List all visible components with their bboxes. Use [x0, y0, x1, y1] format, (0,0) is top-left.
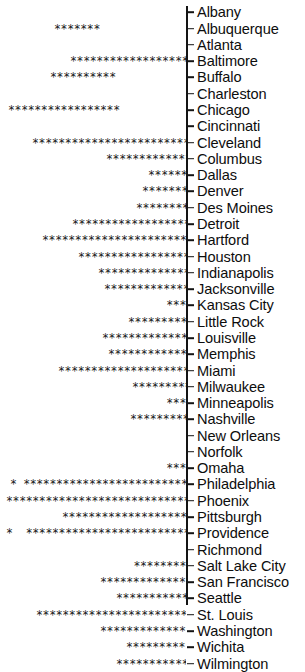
category-label: Minneapolis — [197, 396, 274, 411]
category-label: Dallas — [197, 168, 237, 183]
bar-asterisks: ************* — [108, 348, 186, 361]
category-label: Providence — [197, 526, 269, 541]
axis-tick — [187, 28, 194, 30]
chart-row: *************Memphis — [0, 346, 305, 362]
category-label: Miami — [197, 363, 235, 378]
axis-tick — [187, 256, 194, 258]
category-label: Norfolk — [197, 444, 243, 459]
category-label: Louisville — [197, 330, 256, 345]
axis-tick — [187, 663, 194, 665]
axis-tick — [187, 305, 194, 307]
chart-row: ***Omaha — [0, 460, 305, 476]
axis-tick — [187, 191, 194, 193]
chart-row: ***************************Chicago — [0, 102, 305, 118]
axis-tick — [187, 207, 194, 209]
bar-asterisks: *************************** — [36, 608, 186, 621]
chart-row: Albany — [0, 4, 305, 20]
category-label: Memphis — [197, 347, 256, 362]
category-label: Columbus — [197, 151, 262, 166]
chart-row: **********Wichita — [0, 639, 305, 655]
chart-row: *********Milwaukee — [0, 379, 305, 395]
category-label: Cleveland — [197, 135, 261, 150]
axis-tick — [187, 516, 194, 518]
bar-asterisks: ********* — [130, 413, 186, 426]
category-label: Wilmington — [197, 656, 268, 671]
chart-row: * **************************************… — [0, 476, 305, 492]
bar-asterisks: *** — [162, 462, 186, 475]
axis-tick — [187, 435, 194, 437]
chart-row: ***Minneapolis — [0, 395, 305, 411]
chart-row: * **************************************… — [0, 525, 305, 541]
chart-row: *********Nashville — [0, 411, 305, 427]
chart-row: **********************************Clevel… — [0, 134, 305, 150]
axis-tick — [187, 77, 194, 79]
bar-asterisks: *************** — [100, 576, 186, 589]
chart-row: ****************************Baltimore — [0, 53, 305, 69]
category-label: Buffalo — [197, 70, 241, 85]
category-label: Phoenix — [197, 493, 249, 508]
chart-row: Cincinnati — [0, 118, 305, 134]
axis-tick — [187, 60, 194, 62]
category-label: Philadelphia — [197, 477, 275, 492]
axis-tick — [187, 614, 194, 616]
bar-asterisks: **************************** — [70, 55, 186, 68]
axis-tick — [187, 353, 194, 355]
chart-row: *******Albuquerque — [0, 20, 305, 36]
bar-asterisks: *************************** — [8, 104, 120, 117]
chart-row: *************Buffalo — [0, 69, 305, 85]
axis-tick — [187, 44, 194, 46]
category-label: Seattle — [197, 591, 242, 606]
category-label: Houston — [197, 249, 251, 264]
category-label: Charleston — [197, 86, 267, 101]
category-label: St. Louis — [197, 607, 253, 622]
bar-asterisks: **************** — [102, 331, 186, 344]
category-label: Omaha — [197, 461, 244, 476]
chart-row: ***Kansas City — [0, 297, 305, 313]
bar-asterisks: ********** — [126, 641, 186, 654]
chart-row: Norfolk — [0, 444, 305, 460]
chart-row: ***************Columbus — [0, 151, 305, 167]
bar-asterisks: ********************************** — [32, 136, 186, 149]
axis-tick — [187, 533, 194, 535]
bar-asterisks: ********* — [132, 380, 186, 393]
axis-tick — [187, 337, 194, 339]
axis-tick — [187, 581, 194, 583]
bar-asterisks: ****** — [148, 169, 186, 182]
category-label: Pittsburgh — [197, 510, 262, 525]
chart-row: Richmond — [0, 541, 305, 557]
bar-asterisks: *************** — [106, 152, 186, 165]
category-label: Hartford — [197, 233, 249, 248]
axis-tick — [187, 142, 194, 144]
chart-row: ****************Washington — [0, 623, 305, 639]
axis-tick — [187, 93, 194, 95]
axis-tick — [187, 12, 194, 14]
axis-tick — [187, 174, 194, 176]
axis-tick — [187, 239, 194, 241]
category-label: Nashville — [197, 412, 255, 427]
chart-row: ****************Louisville — [0, 330, 305, 346]
axis-tick — [187, 646, 194, 648]
category-label: Kansas City — [197, 298, 274, 313]
axis-tick — [187, 549, 194, 551]
axis-tick — [187, 598, 194, 600]
category-label: Chicago — [197, 103, 250, 118]
bar-asterisks: ********************* — [78, 250, 186, 263]
chart-row: ****************Jacksonville — [0, 281, 305, 297]
chart-row: ***************************St. Louis — [0, 607, 305, 623]
axis-tick — [187, 500, 194, 502]
axis-tick — [187, 158, 194, 160]
chart-row: *********************Detroit — [0, 216, 305, 232]
bar-asterisks: ******** — [136, 201, 186, 214]
axis-tick — [187, 288, 194, 290]
category-label: Des Moines — [197, 200, 273, 215]
bar-asterisks: ************************ — [58, 364, 186, 377]
category-label: Albany — [197, 5, 241, 20]
bar-asterisks: **************** — [104, 283, 186, 296]
bar-asterisks: ******* — [54, 22, 100, 35]
category-label: Wichita — [197, 640, 244, 655]
axis-tick — [187, 402, 194, 404]
bar-asterisks: ************ — [116, 592, 186, 605]
chart-row: ************************Miami — [0, 362, 305, 378]
chart-row: ********Des Moines — [0, 200, 305, 216]
